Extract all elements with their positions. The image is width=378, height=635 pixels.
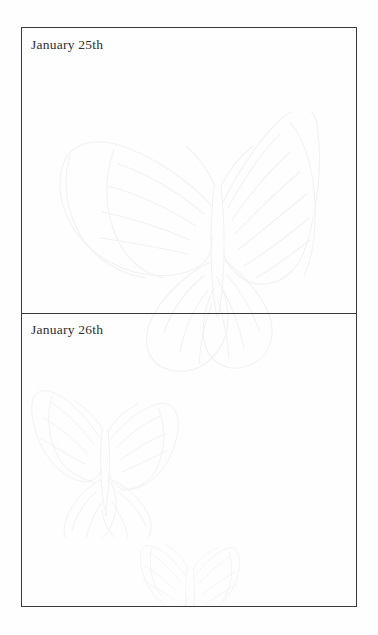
day-panel-january-25: January 25th xyxy=(22,28,356,313)
date-heading-january-25: January 25th xyxy=(31,36,103,53)
journal-frame: January 25th January 26th xyxy=(21,27,357,607)
journal-page: January 25th January 26th xyxy=(0,0,378,635)
panel-divider xyxy=(22,313,356,314)
date-heading-january-26: January 26th xyxy=(31,321,103,338)
day-panel-january-26: January 26th xyxy=(22,313,356,606)
